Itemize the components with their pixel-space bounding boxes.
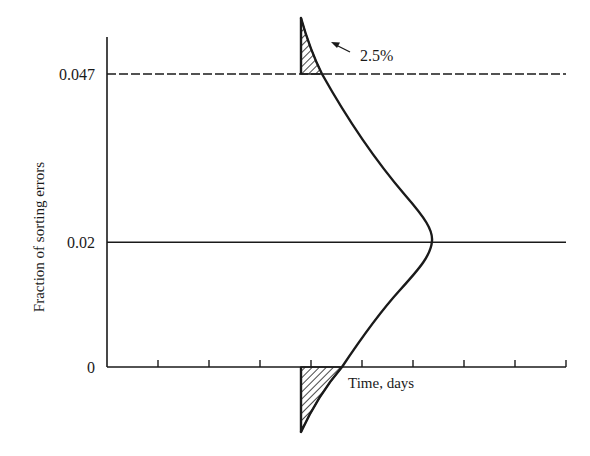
x-axis-title: Time, days [348,375,414,391]
x-ticks [158,360,566,367]
arrow-icon [331,42,340,48]
y-tick-label: 0.047 [59,66,95,83]
annotation-label: 2.5% [360,47,393,64]
y-axis-title: Fraction of sorting errors [31,162,47,313]
y-ticks: 00.020.047 [59,66,95,376]
lower-tail-shaded [301,367,342,432]
y-tick-label: 0 [87,359,95,376]
control-chart: 00.020.047 2.5% Time, days Fraction of s… [0,0,590,456]
y-tick-label: 0.02 [67,234,95,251]
